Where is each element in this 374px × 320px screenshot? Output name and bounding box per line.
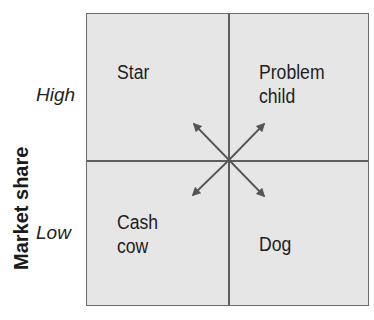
arrows bbox=[0, 0, 374, 320]
arrow-down-right-icon bbox=[229, 160, 264, 196]
arrow-up-right-icon bbox=[229, 124, 264, 160]
arrow-up-left-icon bbox=[194, 124, 229, 160]
arrow-down-left-icon bbox=[193, 160, 229, 195]
